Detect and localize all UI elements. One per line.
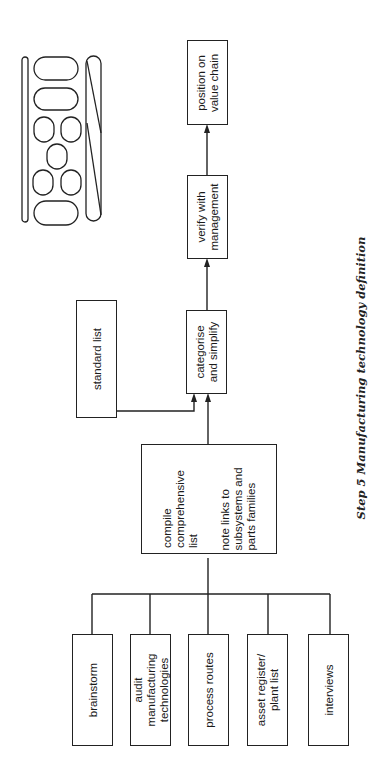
categorise-label: categorise and simplify bbox=[194, 322, 220, 383]
input-label: process routes bbox=[202, 652, 215, 727]
input-label: interviews bbox=[322, 664, 335, 715]
input-label: asset register/ plant list bbox=[255, 645, 281, 735]
compile-text: compile comprehensive list bbox=[161, 470, 200, 548]
position-box: position on value chain bbox=[187, 40, 228, 125]
input-box-brainstorm: brainstorm bbox=[72, 634, 113, 746]
note-links-text: note links to subsystems and parts famil… bbox=[219, 467, 258, 550]
compile-list-box: compile comprehensive list note links to… bbox=[141, 444, 277, 554]
verify-box: verify with management bbox=[187, 175, 228, 259]
input-label: audit manufacturing technologies bbox=[131, 640, 170, 740]
input-box-audit: audit manufacturing technologies bbox=[130, 634, 171, 746]
input-box-asset-register: asset register/ plant list bbox=[247, 634, 288, 746]
position-label: position on value chain bbox=[195, 53, 221, 111]
input-label: brainstorm bbox=[86, 663, 99, 717]
figure-caption: Step 5 Manufacturing technology definiti… bbox=[354, 237, 368, 520]
categorise-box: categorise and simplify bbox=[186, 310, 227, 394]
standard-list-label: standard list bbox=[90, 328, 103, 390]
input-box-process-routes: process routes bbox=[188, 634, 229, 746]
standard-list-box: standard list bbox=[76, 300, 117, 418]
verify-label: verify with management bbox=[195, 183, 221, 250]
manufacturing-layout-icon bbox=[20, 55, 110, 235]
input-box-interviews: interviews bbox=[308, 634, 349, 746]
